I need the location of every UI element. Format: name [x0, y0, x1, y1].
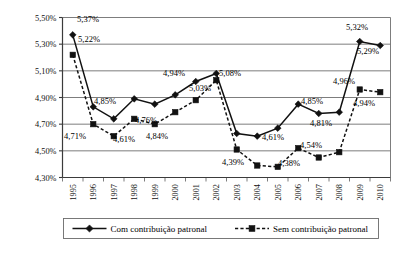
data-point-marker [233, 130, 240, 137]
legend-label-2: Sem contribuição patronal [273, 224, 368, 234]
data-point-marker [234, 147, 239, 152]
x-axis-ticks [63, 178, 391, 182]
data-point-marker [70, 52, 75, 57]
data-label: 5,37% [77, 14, 99, 24]
x-tick-label: 2009 [356, 184, 365, 201]
x-tick-label: 2008 [335, 184, 344, 201]
x-tick-label: 2003 [233, 184, 242, 201]
data-point-marker [193, 97, 198, 102]
data-label: 5,22% [78, 34, 100, 44]
x-tick-label: 1997 [110, 184, 119, 201]
data-label: 4,94% [353, 98, 375, 108]
data-point-marker [91, 121, 96, 126]
y-tick-label: 4,70% [35, 120, 57, 129]
y-axis-tick-labels: 4,30%4,50%4,70%4,90%5,10%5,30%5,50% [35, 14, 57, 183]
data-point-marker [336, 109, 343, 116]
data-label: 4,71% [64, 131, 86, 141]
data-label: 4,85% [301, 96, 323, 106]
series-lines [73, 35, 381, 167]
x-tick-label: 2007 [315, 184, 324, 201]
x-tick-label: 2005 [274, 184, 283, 201]
x-tick-label: 2010 [376, 184, 385, 201]
x-axis-tick-labels: 1995199619971998199920002001200220032004… [69, 183, 386, 200]
data-label: 4,61% [113, 134, 135, 144]
data-point-marker [173, 109, 178, 114]
data-label: 5,03% [189, 83, 211, 93]
data-point-marker [255, 163, 260, 168]
chart-legend: Com contribuição patronalSem contribuiçã… [64, 219, 379, 239]
chart-container: 4,30%4,50%4,70%4,90%5,10%5,30%5,50% 1995… [0, 0, 411, 256]
data-label: 4,81% [310, 118, 332, 128]
series-markers [69, 32, 383, 170]
x-tick-label: 2004 [253, 183, 262, 200]
data-point-marker [378, 89, 383, 94]
y-tick-label: 5,50% [35, 14, 57, 23]
data-label: 4,94% [163, 68, 185, 78]
x-tick-label: 2002 [212, 184, 221, 201]
y-tick-label: 4,30% [35, 174, 57, 183]
data-label: 5,29% [357, 46, 379, 56]
data-point-marker [151, 101, 158, 108]
x-tick-label: 1999 [151, 184, 160, 201]
x-tick-label: 1998 [130, 184, 139, 201]
x-tick-label: 2006 [294, 184, 303, 201]
data-point-marker [69, 32, 76, 39]
y-tick-label: 4,90% [35, 94, 57, 103]
data-point-marker [337, 149, 342, 154]
x-tick-label: 1996 [89, 184, 98, 201]
y-tick-label: 5,10% [35, 67, 57, 76]
x-tick-label: 2000 [171, 184, 180, 201]
data-label: 4,76% [135, 115, 157, 125]
data-point-marker [315, 110, 322, 117]
data-point-marker [357, 87, 362, 92]
legend-label-1: Com contribuição patronal [111, 224, 208, 234]
data-label: 4,85% [94, 96, 116, 106]
data-label: 4,54% [300, 140, 322, 150]
data-point-marker [316, 155, 321, 160]
data-point-marker [254, 133, 261, 140]
x-tick-label: 2001 [192, 184, 201, 201]
data-label: 4,61% [262, 132, 284, 142]
data-label: 4,39% [222, 157, 244, 167]
y-tick-label: 4,50% [35, 147, 57, 156]
data-label: 4,84% [146, 131, 168, 141]
legend-marker [249, 226, 255, 232]
data-label: 5,32% [346, 22, 368, 32]
y-tick-label: 5,30% [35, 40, 57, 49]
data-label: 5,08% [219, 68, 241, 78]
line-chart: 4,30%4,50%4,70%4,90%5,10%5,30%5,50% 1995… [0, 0, 411, 256]
data-label: 4,38% [278, 158, 300, 168]
data-point-marker [214, 77, 219, 82]
x-tick-label: 1995 [69, 184, 78, 201]
data-label: 4,96% [333, 76, 355, 86]
